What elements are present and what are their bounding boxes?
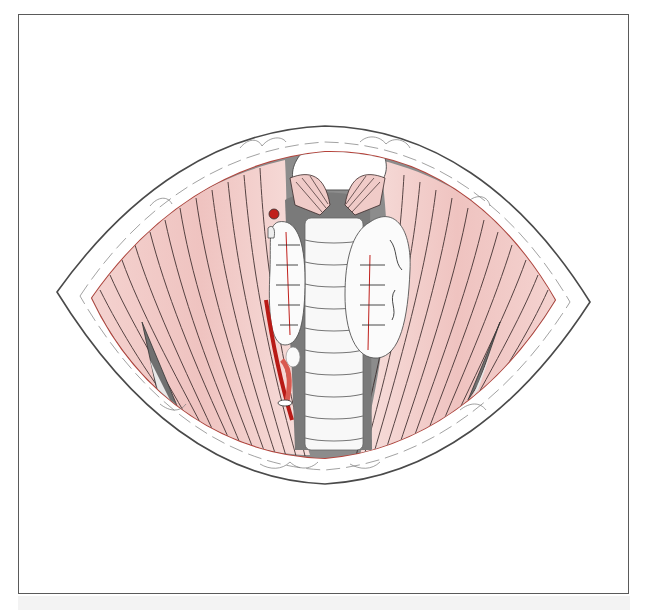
neck-anatomy-illustration [0, 0, 645, 610]
left-thyroid-lobe [269, 222, 305, 345]
parathyroid-gland [286, 347, 300, 367]
